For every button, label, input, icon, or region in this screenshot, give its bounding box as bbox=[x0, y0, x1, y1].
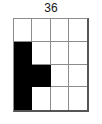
grid-cell-empty[interactable] bbox=[32, 42, 50, 65]
grid-label-text: 36 bbox=[44, 2, 57, 15]
grid-cell-empty[interactable] bbox=[14, 19, 32, 42]
grid-cell-empty[interactable] bbox=[69, 42, 87, 65]
puzzle-figure: 36 bbox=[0, 0, 102, 124]
grid-cell-empty[interactable] bbox=[51, 42, 69, 65]
grid-cell-empty[interactable] bbox=[32, 19, 50, 42]
grid-cell-filled[interactable] bbox=[14, 42, 32, 65]
grid-cell-empty[interactable] bbox=[69, 65, 87, 88]
grid-cell-empty[interactable] bbox=[69, 87, 87, 110]
grid-container bbox=[13, 18, 89, 112]
grid-cell-empty[interactable] bbox=[69, 19, 87, 42]
cell-grid bbox=[13, 18, 89, 112]
grid-cell-empty[interactable] bbox=[51, 87, 69, 110]
grid-cell-filled[interactable] bbox=[14, 65, 32, 88]
grid-cell-filled[interactable] bbox=[32, 65, 50, 88]
grid-cell-empty[interactable] bbox=[51, 19, 69, 42]
grid-cell-empty[interactable] bbox=[51, 65, 69, 88]
grid-cell-filled[interactable] bbox=[14, 87, 32, 110]
grid-cell-empty[interactable] bbox=[32, 87, 50, 110]
grid-label: 36 bbox=[0, 0, 102, 16]
